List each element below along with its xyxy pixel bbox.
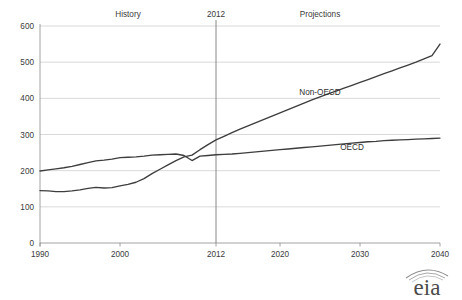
y-tick-label-100: 100 xyxy=(20,203,34,212)
x-tick-label-2020: 2020 xyxy=(271,250,290,259)
series-line-oecd xyxy=(40,138,440,171)
gridlines-group xyxy=(40,26,440,207)
y-tick-label-200: 200 xyxy=(20,167,34,176)
x-tick-label-2040: 2040 xyxy=(431,250,450,259)
divider-year-label: 2012 xyxy=(207,10,226,19)
projections-label: Projections xyxy=(300,10,341,19)
history-label: History xyxy=(115,10,141,19)
series-group xyxy=(40,44,440,192)
x-axis-tick-labels: 199020002012202020302040 xyxy=(31,250,450,259)
y-tick-label-600: 600 xyxy=(20,22,34,31)
y-tick-label-400: 400 xyxy=(20,94,34,103)
y-tick-label-500: 500 xyxy=(20,58,34,67)
eia-logo-text: eia xyxy=(414,275,441,298)
eia-logo: eia xyxy=(398,264,456,298)
series-labels: Non-OECDOECD xyxy=(299,88,364,152)
series-label-non-oecd: Non-OECD xyxy=(299,88,340,97)
y-axis-tick-labels: 0100200300400500600 xyxy=(20,22,34,248)
x-tick-label-1990: 1990 xyxy=(31,250,50,259)
region-labels: HistoryProjections2012 xyxy=(115,10,340,19)
line-chart: 0100200300400500600 19902000201220202030… xyxy=(0,0,462,300)
series-line-non-oecd xyxy=(40,44,440,192)
series-label-oecd: OECD xyxy=(340,143,364,152)
x-tick-label-2030: 2030 xyxy=(351,250,370,259)
chart-container: 0100200300400500600 19902000201220202030… xyxy=(0,0,462,300)
axes-group xyxy=(40,24,440,247)
y-tick-label-0: 0 xyxy=(29,239,34,248)
y-tick-label-300: 300 xyxy=(20,131,34,140)
x-tick-label-2012: 2012 xyxy=(207,250,226,259)
x-tick-label-2000: 2000 xyxy=(111,250,130,259)
